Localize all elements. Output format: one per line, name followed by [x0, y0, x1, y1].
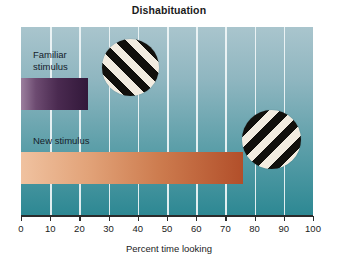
x-axis-tick-label: 70: [220, 223, 231, 234]
x-axis-label: Percent time looking: [0, 243, 338, 254]
gridline: [167, 27, 169, 215]
x-axis-tick-label: 80: [249, 223, 260, 234]
x-axis-tick: [138, 216, 139, 221]
x-axis-tick: [79, 216, 80, 221]
x-axis-tick-label: 90: [279, 223, 290, 234]
bar-familiar-stimulus: [21, 78, 88, 110]
x-axis-tick: [255, 216, 256, 221]
gridline: [225, 27, 227, 215]
striped-disc-icon: [242, 110, 301, 169]
x-axis-tick: [167, 216, 168, 221]
x-axis-tick: [196, 216, 197, 221]
x-axis-tick-label: 40: [133, 223, 144, 234]
x-axis-tick: [225, 216, 226, 221]
striped-disc-icon: [102, 39, 159, 96]
bar-new-stimulus: [21, 152, 243, 184]
x-axis-tick: [21, 216, 22, 221]
x-axis-tick-label: 20: [74, 223, 85, 234]
figure-dishabituation: Dishabituation Familiar stimulus New sti…: [0, 0, 338, 269]
x-axis-tick: [313, 216, 314, 221]
bar-label-familiar-stimulus: Familiar stimulus: [33, 49, 68, 72]
x-axis-tick-label: 10: [45, 223, 56, 234]
x-axis-tick: [109, 216, 110, 221]
plot-area: Familiar stimulus New stimulus: [21, 27, 313, 215]
x-axis-tick: [50, 216, 51, 221]
bar-label-new-stimulus: New stimulus: [33, 135, 90, 147]
x-axis-tick-label: 60: [191, 223, 202, 234]
x-axis-tick: [284, 216, 285, 221]
x-axis-tick-label: 30: [103, 223, 114, 234]
x-axis-tick-label: 50: [162, 223, 173, 234]
x-axis-tick-label: 100: [305, 223, 321, 234]
x-axis-tick-label: 0: [18, 223, 23, 234]
chart-title: Dishabituation: [0, 4, 338, 16]
gridline: [196, 27, 198, 215]
gridline: [79, 27, 81, 215]
